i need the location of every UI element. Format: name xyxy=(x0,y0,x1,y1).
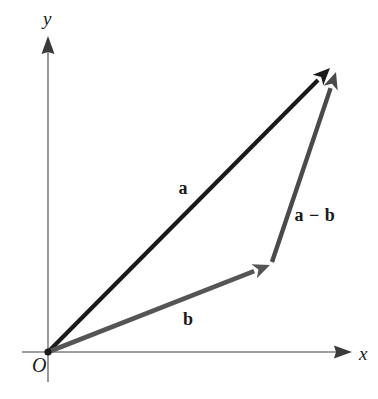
vector-b-shaft xyxy=(48,271,254,352)
vector-b-group xyxy=(48,264,270,352)
vector-diagram-canvas xyxy=(0,0,378,399)
vector-a-minus-b-shaft xyxy=(272,88,331,262)
origin-label: O xyxy=(32,355,46,375)
x-axis-label: x xyxy=(359,344,367,363)
y-axis-arrow-icon xyxy=(42,36,55,54)
x-axis-arrow-icon xyxy=(334,346,352,359)
vector-diagram-figure: y x O a b a − b xyxy=(0,0,378,399)
vector-b-label: b xyxy=(183,310,193,328)
vector-a-minus-b-group xyxy=(272,72,338,262)
y-axis-label: y xyxy=(43,9,51,28)
vector-a-label: a xyxy=(179,179,188,197)
vector-b-arrow-icon xyxy=(251,264,270,278)
vector-a-minus-b-label: a − b xyxy=(295,206,336,224)
